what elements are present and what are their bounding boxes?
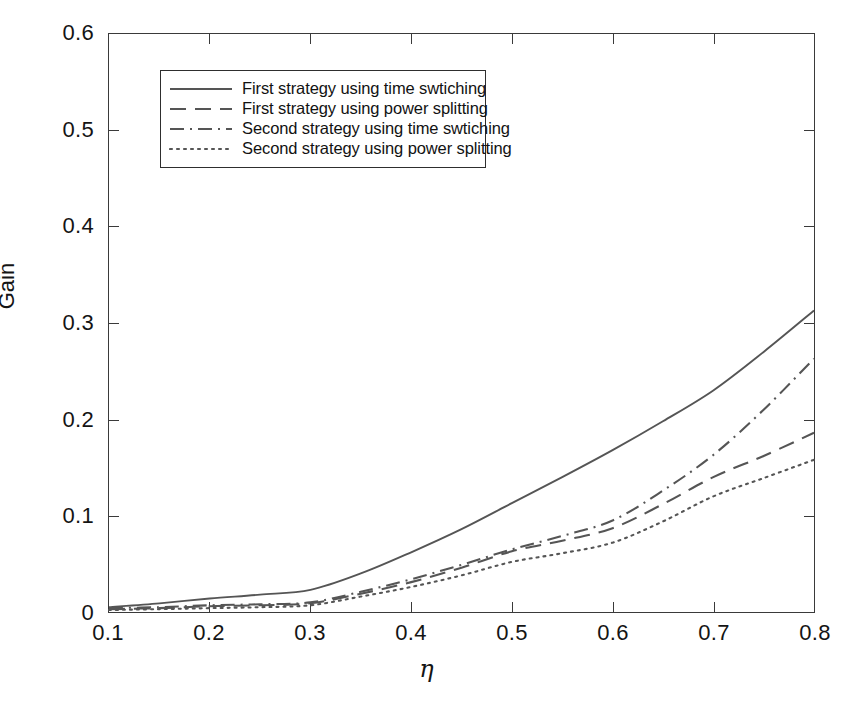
x-tick-label-7: 0.8 [770, 620, 853, 646]
y-axis-title: Gain [0, 263, 20, 309]
y-tick-label-5: 0.5 [0, 117, 94, 143]
x-tick-label-2: 0.3 [265, 620, 355, 646]
y-tick-label-2: 0.2 [0, 407, 94, 433]
series-line-2 [109, 359, 814, 608]
y-tick-label-6: 0.6 [0, 20, 94, 46]
y-tick-label-4: 0.4 [0, 213, 94, 239]
legend-line-sample-icon-3 [169, 142, 233, 156]
legend-line-sample-icon-0 [169, 82, 233, 96]
x-tick-label-5: 0.6 [568, 620, 658, 646]
chart-legend: First strategy using time swtichingFirst… [160, 70, 486, 168]
legend-line-sample-icon-2 [169, 122, 233, 136]
series-line-1 [109, 433, 814, 609]
legend-line-sample-icon-1 [169, 102, 233, 116]
legend-label-0: First strategy using time swtiching [242, 79, 486, 98]
chart-figure: 00.10.20.30.40.50.6 0.10.20.30.40.50.60.… [0, 0, 853, 705]
x-tick-label-6: 0.7 [669, 620, 759, 646]
x-tick-label-1: 0.2 [164, 620, 254, 646]
x-tick-label-0: 0.1 [63, 620, 153, 646]
x-tick-label-3: 0.4 [366, 620, 456, 646]
legend-label-1: First strategy using power splitting [242, 99, 488, 118]
legend-item-0[interactable]: First strategy using time swtiching [169, 79, 475, 98]
legend-label-3: Second strategy using power splitting [242, 139, 512, 158]
legend-label-2: Second strategy using time swtiching [242, 119, 510, 138]
series-line-0 [109, 310, 814, 607]
x-tick-label-4: 0.5 [467, 620, 557, 646]
legend-item-2[interactable]: Second strategy using time swtiching [169, 119, 475, 138]
legend-item-1[interactable]: First strategy using power splitting [169, 99, 475, 118]
y-tick-label-1: 0.1 [0, 503, 94, 529]
y-tick-label-3: 0.3 [0, 310, 94, 336]
legend-item-3[interactable]: Second strategy using power splitting [169, 139, 475, 158]
x-axis-title: η [0, 655, 853, 683]
series-line-3 [109, 460, 814, 610]
